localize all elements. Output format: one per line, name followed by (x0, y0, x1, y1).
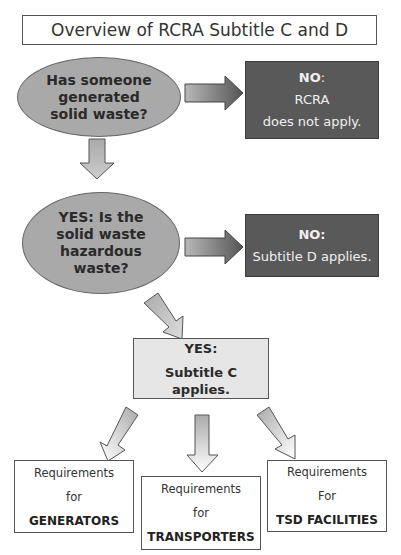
question1-line: solid waste? (50, 106, 147, 123)
question2-line: hazardous (60, 243, 142, 260)
arrow-diagonal-down-right-icon (255, 405, 299, 463)
req-line1: Requirements (34, 461, 114, 485)
req-category: TRANSPORTERS (147, 525, 254, 549)
diagram-title: Overview of RCRA Subtitle C and D (22, 15, 377, 45)
yes-c-label: YES: (185, 340, 218, 357)
arrow-right-icon (183, 228, 245, 266)
requirements-generators-box: Requirements for GENERATORS (14, 460, 134, 533)
requirements-tsd-facilities-box: Requirements For TSD FACILITIES (267, 460, 387, 532)
arrow-right-icon (183, 74, 245, 112)
req-line2: For (318, 484, 336, 508)
question2-line: YES: Is the (59, 209, 144, 226)
no1-heading: NO: (299, 67, 325, 89)
req-line2: for (193, 501, 209, 525)
arrow-diagonal-down-right-icon (138, 287, 198, 339)
yes-c-line: applies. (172, 381, 230, 398)
no-rcra-does-not-apply-box: NO: RCRA does not apply. (245, 61, 379, 139)
req-line1: Requirements (161, 477, 241, 501)
req-category: TSD FACILITIES (276, 508, 378, 532)
req-line1: Requirements (287, 460, 367, 484)
no1-line: RCRA (295, 89, 330, 111)
question2-line: waste? (73, 260, 128, 277)
arrow-down-icon (78, 137, 118, 181)
requirements-transporters-box: Requirements for TRANSPORTERS (141, 476, 261, 550)
no-subtitle-d-applies-box: NO: Subtitle D applies. (245, 214, 379, 277)
question-ellipse-generated-solid-waste: Has someone generated solid waste? (17, 57, 181, 137)
arrow-down-icon (185, 413, 221, 475)
question1-line: generated (58, 89, 140, 106)
question2-line: solid waste (56, 226, 145, 243)
yes-subtitle-c-applies-box: YES: Subtitle C applies. (133, 338, 269, 399)
req-category: GENERATORS (29, 509, 119, 533)
no2-label: NO: (298, 224, 325, 246)
yes-c-line: Subtitle C (165, 364, 237, 381)
no1-label: NO (299, 70, 321, 85)
no2-line: Subtitle D applies. (252, 246, 371, 268)
question-ellipse-hazardous-waste: YES: Is the solid waste hazardous waste? (22, 192, 180, 294)
no1-line: does not apply. (263, 111, 362, 133)
arrow-diagonal-down-left-icon (98, 405, 142, 463)
req-line2: for (66, 485, 82, 509)
question1-line: Has someone (46, 72, 152, 89)
no1-suffix: : (321, 70, 325, 85)
